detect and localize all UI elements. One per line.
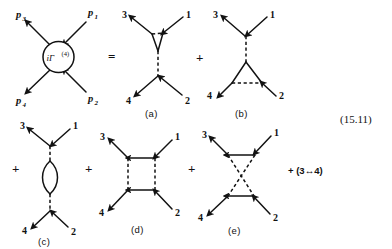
diagram-e-leg-1 <box>255 136 271 153</box>
diagram-c-group: 3 1 4 2 (c) <box>20 120 78 247</box>
diagram-a-caption: (a) <box>145 108 158 119</box>
feynman-diagram-figure: iΓ (4) p 3 p 1 p 4 p 2 = <box>0 0 392 249</box>
diagram-c-label-2: 2 <box>71 226 76 237</box>
diagram-b-label-4: 4 <box>207 90 212 101</box>
momentum-label-p4: p <box>15 95 21 106</box>
momentum-label-p2: p <box>87 93 93 104</box>
diagram-c-label-4: 4 <box>22 225 27 236</box>
diagram-d-label-3: 3 <box>100 131 105 142</box>
diagram-c-loop-left <box>43 161 51 194</box>
vertex-blob-group: iΓ (4) p 3 p 1 p 4 p 2 <box>15 7 99 109</box>
diagram-a-tri-top-dashed <box>152 33 163 34</box>
diagram-d-group: 3 1 4 2 (d) <box>99 131 180 235</box>
blob-leg-p4 <box>27 68 52 92</box>
momentum-subscript-p4: 4 <box>22 101 27 109</box>
diagram-d-leg-4 <box>110 190 128 209</box>
diagram-a-tri-left <box>152 34 158 51</box>
diagram-e-group: 3 1 4 2 (e) <box>198 127 279 236</box>
diagram-e-caption: (e) <box>228 225 241 236</box>
momentum-label-p3: p <box>15 9 21 20</box>
vertex-blob-superscript: (4) <box>62 50 70 58</box>
diagram-c-label-3: 3 <box>20 120 25 131</box>
vertex-blob-label: iΓ <box>47 53 56 63</box>
diagram-e-label-2: 2 <box>273 212 278 223</box>
blob-leg-p2 <box>64 70 86 92</box>
diagram-b-group: 3 1 4 2 (b) <box>207 9 284 119</box>
diagram-b-leg-1 <box>247 17 267 35</box>
diagram-b-leg-2 <box>262 83 276 96</box>
equals-operator: = <box>108 49 115 64</box>
diagram-d-caption: (d) <box>131 224 144 235</box>
plus-operator-c-d: + <box>85 161 92 176</box>
diagram-b-caption: (b) <box>235 108 248 119</box>
diagram-a-leg-3 <box>131 17 152 34</box>
blob-leg-p3 <box>27 22 52 47</box>
momentum-subscript-p2: 2 <box>94 99 99 107</box>
plus-operator-row2-start: + <box>12 161 19 176</box>
diagram-b-label-2: 2 <box>279 90 284 101</box>
diagram-a-label-4: 4 <box>126 95 131 106</box>
diagram-d-label-4: 4 <box>99 207 104 218</box>
diagram-b-tri-left <box>232 62 246 83</box>
diagram-d-label-1: 1 <box>175 131 180 142</box>
blob-leg-p1 <box>64 22 86 44</box>
diagram-c-loop-right <box>50 161 58 194</box>
diagram-a-leg-1 <box>163 17 183 33</box>
diagram-b-leg-3 <box>223 17 245 36</box>
diagram-c-label-1: 1 <box>73 120 78 131</box>
diagram-e-label-1: 1 <box>274 127 279 138</box>
diagram-c-leg-3 <box>29 129 50 146</box>
diagram-b-label-1: 1 <box>270 9 275 20</box>
diagram-b-leg-4 <box>219 83 232 96</box>
diagram-c-leg-2 <box>52 212 68 227</box>
diagram-a-label-3: 3 <box>122 9 127 20</box>
diagram-c-caption: (c) <box>38 236 50 247</box>
diagram-e-label-4: 4 <box>198 212 203 223</box>
diagram-b-tri-right <box>246 62 262 83</box>
swap-term-label: + (3↔4) <box>288 165 323 176</box>
diagram-a-group: 3 1 4 2 (a) <box>122 9 191 119</box>
diagram-a-tri-right <box>158 33 163 51</box>
plus-operator-d-e: + <box>188 161 195 176</box>
diagram-a-label-2: 2 <box>185 95 190 106</box>
figure-canvas: iΓ (4) p 3 p 1 p 4 p 2 = <box>0 0 392 249</box>
diagram-e-label-3: 3 <box>202 129 207 140</box>
diagram-e-leg-2 <box>254 197 270 214</box>
diagram-a-leg-4 <box>136 76 158 95</box>
diagram-c-leg-4 <box>33 211 50 227</box>
diagram-d-label-2: 2 <box>175 207 180 218</box>
momentum-subscript-p3: 3 <box>22 15 27 23</box>
momentum-subscript-p1: 1 <box>95 13 99 21</box>
momentum-label-p1: p <box>87 7 93 18</box>
plus-operator-a-b: + <box>196 50 203 65</box>
diagram-d-leg-3 <box>110 140 128 158</box>
equation-number: (15.11) <box>340 113 372 126</box>
diagram-e-leg-4 <box>209 196 228 214</box>
diagram-d-leg-2 <box>155 191 172 209</box>
diagram-a-label-1: 1 <box>186 9 191 20</box>
diagram-c-leg-1 <box>52 129 70 145</box>
diagram-d-leg-1 <box>155 140 172 157</box>
diagram-a-leg-2 <box>160 77 182 95</box>
diagram-b-label-3: 3 <box>213 9 218 20</box>
diagram-e-leg-3 <box>211 138 228 155</box>
